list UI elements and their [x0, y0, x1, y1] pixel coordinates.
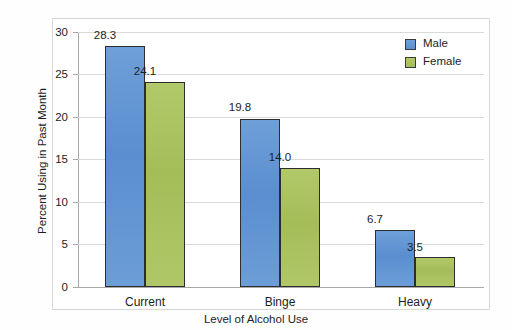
bar-value-current-male: 28.3	[85, 30, 125, 42]
legend-swatch-male-icon	[405, 39, 416, 50]
legend-label-male: Male	[423, 38, 448, 50]
bar-value-binge-male: 19.8	[220, 102, 260, 114]
y-axis-tick-labels: 30 25 20 15 10 5 0	[44, 0, 68, 330]
y-tick-label-5: 5	[44, 239, 68, 251]
legend-swatch-female-icon	[405, 57, 416, 68]
x-category-label-binge: Binge	[240, 296, 320, 308]
y-tick-label-30: 30	[44, 27, 68, 39]
bar-heavy-male[interactable]	[375, 230, 415, 287]
bar-value-heavy-male: 6.7	[355, 214, 395, 226]
x-category-label-current: Current	[105, 296, 185, 308]
x-category-label-heavy: Heavy	[375, 296, 455, 308]
y-tick-label-15: 15	[44, 154, 68, 166]
x-axis-line	[78, 287, 484, 288]
bar-current-male[interactable]	[105, 46, 145, 287]
bar-heavy-female[interactable]	[415, 257, 455, 287]
y-tick-label-0: 0	[44, 282, 68, 294]
bar-value-binge-female: 14.0	[260, 152, 300, 164]
y-tick-label-10: 10	[44, 197, 68, 209]
y-tick-label-25: 25	[44, 69, 68, 81]
gridline-30	[78, 32, 484, 33]
bar-value-heavy-female: 3.5	[395, 242, 435, 254]
chart-legend: Male Female	[405, 36, 461, 72]
bar-current-female[interactable]	[145, 82, 185, 287]
bar-value-current-female: 24.1	[125, 66, 165, 78]
legend-item-female[interactable]: Female	[405, 54, 461, 70]
legend-label-female: Female	[423, 56, 461, 68]
legend-item-male[interactable]: Male	[405, 36, 461, 52]
chart-figure: Percent Using in Past Month 30 25 20 15 …	[0, 0, 512, 330]
x-axis-title: Level of Alcohol Use	[0, 313, 512, 325]
bar-binge-female[interactable]	[280, 168, 320, 287]
y-tick-label-20: 20	[44, 112, 68, 124]
bar-binge-male[interactable]	[240, 119, 280, 287]
